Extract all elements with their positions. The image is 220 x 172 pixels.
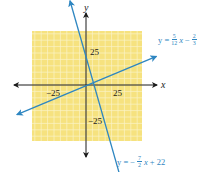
eq1-var: x [179,35,183,45]
y-tick-25: 25 [90,48,99,57]
eq1-slope-num: 5 [172,33,177,40]
eq1-int-den: 3 [193,40,196,46]
x-tick-neg-25: −25 [46,89,60,98]
eq2-var: x [144,157,148,167]
eq1-slope-den: 12 [171,40,177,46]
eq2-lhs: y = [117,157,128,167]
eq1-int-num: 2 [192,33,197,40]
eq2-fraction-slope: 7 2 [137,155,142,168]
x-tick-25: 25 [113,89,122,98]
eq2-slope-den: 2 [138,162,141,168]
eq1-op: − [185,35,190,45]
equation-label-line2: y = − 7 2 x + 22 [117,155,165,168]
eq1-fraction-slope: 5 12 [171,33,177,46]
eq2-slope-num: 7 [137,155,142,162]
equation-label-line1: y = 5 12 x − 2 3 [158,33,197,46]
coordinate-plane [0,0,220,172]
eq1-fraction-intercept: 2 3 [192,33,197,46]
y-axis-label: y [84,3,88,12]
eq1-lhs: y = [158,35,169,45]
x-axis-label: x [161,80,165,89]
eq2-rest: + 22 [150,157,165,167]
eq2-sign: − [130,157,135,167]
y-tick-neg-25: −25 [88,117,102,126]
